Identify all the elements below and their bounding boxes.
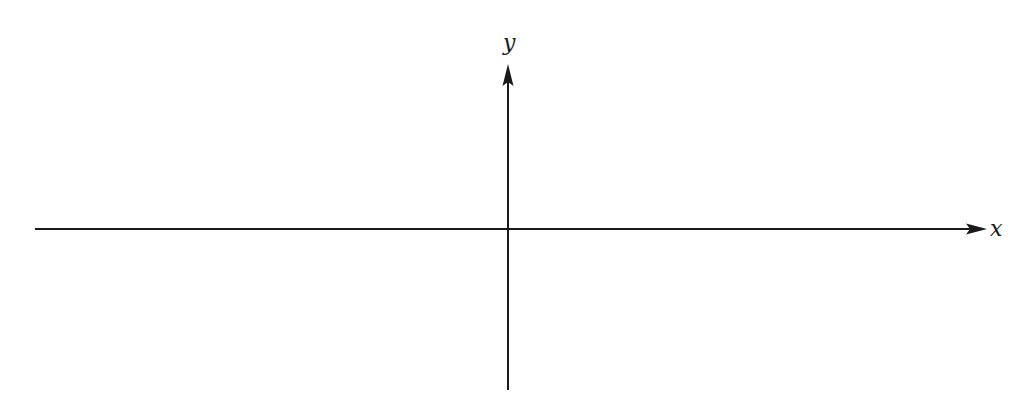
x-axis: x bbox=[35, 216, 1003, 241]
coordinate-axes-diagram: x y bbox=[0, 0, 1033, 409]
y-axis-label: y bbox=[502, 30, 516, 55]
x-axis-label: x bbox=[990, 216, 1003, 241]
y-axis: y bbox=[502, 30, 516, 390]
